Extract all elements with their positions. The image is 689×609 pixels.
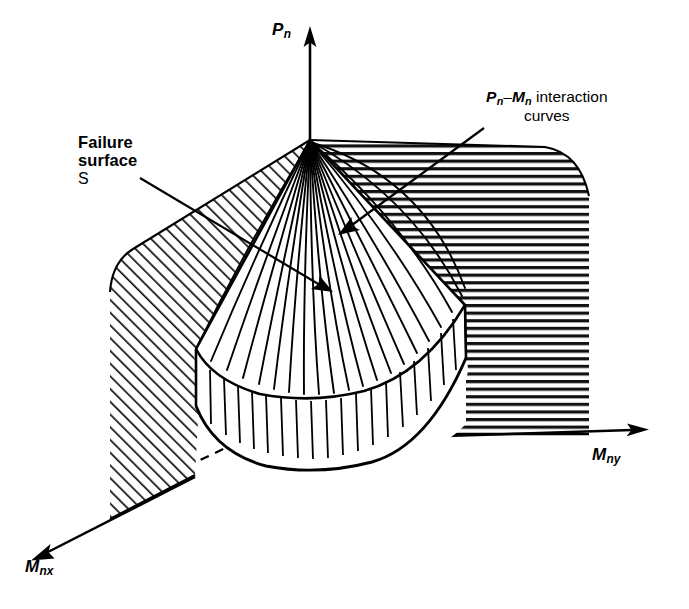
mny-axis-label-main: M — [592, 445, 606, 464]
interaction-curves-dash: – — [503, 88, 512, 105]
mnx-axis-label-main: M — [25, 557, 39, 576]
interaction-curves-mn-main: M — [512, 88, 525, 105]
interaction-curves-line2: curves — [524, 107, 570, 124]
failure-surface-figure: Failure surface S Pn–Mn interaction curv… — [0, 0, 689, 609]
mny-axis-label-sub: ny — [606, 452, 620, 466]
pn-axis-label: Pn — [272, 20, 291, 42]
failure-surface-label: Failure surface S — [78, 133, 137, 188]
failure-surface-label-line3: S — [78, 170, 137, 188]
failure-surface-label-line1: Failure — [78, 133, 133, 151]
skirt-right-edge — [465, 304, 466, 358]
interaction-curves-label: Pn–Mn interaction curves — [486, 88, 608, 125]
interaction-curves-mn-sub: n — [525, 95, 532, 107]
pn-axis-label-sub: n — [283, 27, 291, 41]
interaction-curves-tail: interaction — [532, 88, 608, 105]
mnx-axis-label-sub: nx — [39, 564, 53, 578]
mny-axis-label: Mny — [592, 445, 620, 467]
pn-axis-label-main: P — [272, 20, 283, 39]
mnx-axis-label: Mnx — [25, 557, 53, 579]
failure-surface-label-line2: surface — [78, 151, 137, 169]
interaction-curves-pn-main: P — [486, 88, 496, 105]
